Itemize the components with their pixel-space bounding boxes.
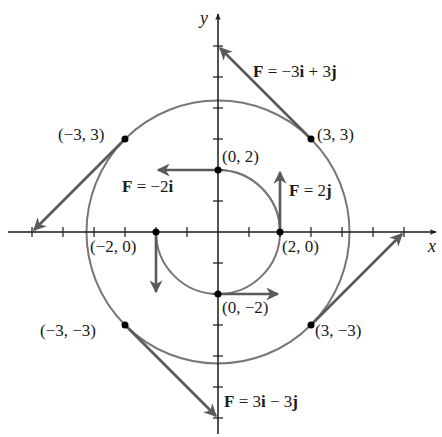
force-label-top: F = −3i + 3j <box>253 62 337 81</box>
vector-field-diagram: x y (0, 2) (2, 0) (−2, 0) (0, −2) (3, 3)… <box>0 0 442 437</box>
point-m2-0 <box>153 229 160 236</box>
vector-at-m3-m3 <box>125 325 216 416</box>
label-point-3-3: (3, 3) <box>317 125 354 144</box>
point-3-3 <box>308 136 315 143</box>
point-m3-3 <box>122 136 129 143</box>
label-point-m3-3: (−3, 3) <box>58 125 104 144</box>
force-label-left: F = −2i <box>122 177 174 196</box>
vector-at-m3-3 <box>34 139 125 230</box>
point-m3-m3 <box>122 322 129 329</box>
y-axis-label: y <box>198 8 208 28</box>
label-point-2-0: (2, 0) <box>282 237 319 256</box>
point-2-0 <box>277 229 284 236</box>
point-0-m2 <box>215 291 222 298</box>
point-0-2 <box>215 167 222 174</box>
label-point-m2-0: (−2, 0) <box>90 237 136 256</box>
force-label-right: F = 2j <box>289 181 332 200</box>
label-point-0-2: (0, 2) <box>222 147 259 166</box>
inner-circle-arc-right <box>218 170 280 232</box>
y-axis <box>213 14 223 434</box>
label-point-3-m3: (3, −3) <box>315 321 361 340</box>
inner-circle-arc-bottom <box>156 232 218 294</box>
label-point-m3-m3: (−3, −3) <box>40 321 96 340</box>
x-axis <box>8 227 436 237</box>
label-point-0-m2: (0, −2) <box>222 298 268 317</box>
vector-at-3-m3 <box>311 234 402 325</box>
x-axis-label: x <box>427 236 436 256</box>
force-label-bottom: F = 3i − 3j <box>224 392 298 411</box>
point-3-m3 <box>308 322 315 329</box>
